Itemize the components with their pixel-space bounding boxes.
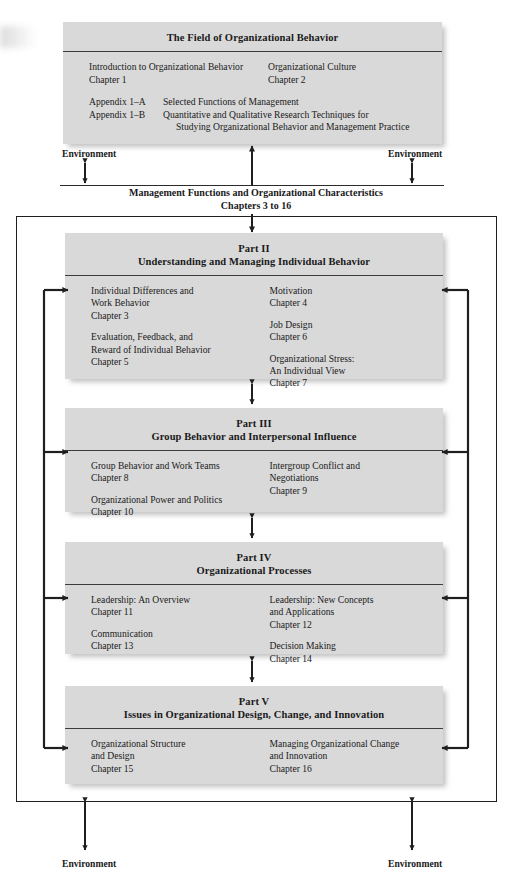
- panel-part-v: Part V Issues in Organizational Design, …: [65, 686, 443, 784]
- topic-line: Job Design: [270, 319, 443, 331]
- topic-chapter: Chapter 10: [91, 506, 262, 518]
- part-iv-title: Organizational Processes: [71, 564, 437, 577]
- center-band-top-rule: [60, 185, 444, 186]
- topic-chapter: Chapter 15: [91, 763, 262, 775]
- topic-line: Organizational Power and Politics: [91, 494, 262, 506]
- topic-chapter: Chapter 11: [91, 606, 262, 618]
- topic-chapter: Chapter 5: [91, 356, 262, 368]
- panel-part-iii-body: Group Behavior and Work Teams Chapter 8 …: [65, 451, 443, 529]
- field-right-entry-chapter: Chapter 2: [268, 74, 442, 87]
- topic-line: and Innovation: [270, 750, 443, 762]
- environment-label-bottom-right: Environment: [388, 858, 442, 869]
- part-ii-title: Understanding and Managing Individual Be…: [71, 255, 437, 268]
- part-v-title: Issues in Organizational Design, Change,…: [71, 708, 437, 721]
- topic-line: Group Behavior and Work Teams: [91, 460, 262, 472]
- panel-field-of-ob: The Field of Organizational Behavior Int…: [63, 22, 442, 144]
- part-iv-right-column: Leadership: New Concepts and Application…: [262, 594, 443, 665]
- topic-entry: Managing Organizational Change and Innov…: [270, 738, 443, 775]
- topic-entry: Organizational Stress: An Individual Vie…: [270, 353, 443, 390]
- topic-chapter: Chapter 6: [270, 331, 443, 343]
- management-functions-line1: Management Functions and Organizational …: [0, 187, 512, 200]
- topic-line: Individual Differences and: [91, 285, 262, 297]
- appendix-continuation: Studying Organizational Behavior and Man…: [163, 121, 442, 134]
- appendix-continuation-row: Studying Organizational Behavior and Man…: [89, 121, 442, 134]
- part-v-label: Part V: [71, 695, 437, 708]
- field-right-entry-title: Organizational Culture: [268, 61, 442, 74]
- topic-chapter: Chapter 14: [270, 653, 443, 665]
- topic-chapter: Chapter 7: [270, 377, 443, 389]
- topic-entry: Intergroup Conflict and Negotiations Cha…: [270, 460, 443, 497]
- topic-line: Leadership: An Overview: [91, 594, 262, 606]
- topic-line: and Design: [91, 750, 262, 762]
- panel-part-iv-heading: Part IV Organizational Processes: [65, 542, 443, 584]
- topic-line: Negotiations: [270, 472, 443, 484]
- topic-chapter: Chapter 4: [270, 297, 443, 309]
- diagram-canvas: The Field of Organizational Behavior Int…: [0, 0, 512, 882]
- part-ii-left-column: Individual Differences and Work Behavior…: [65, 285, 262, 390]
- topic-entry: Leadership: New Concepts and Application…: [270, 594, 443, 631]
- panel-part-v-heading: Part V Issues in Organizational Design, …: [65, 686, 443, 728]
- topic-chapter: Chapter 16: [270, 763, 443, 775]
- panel-field-of-ob-body: Introduction to Organizational Behavior …: [63, 52, 442, 146]
- topic-entry: Group Behavior and Work Teams Chapter 8: [91, 460, 262, 485]
- environment-label-top-right: Environment: [388, 148, 442, 159]
- panel-part-iii-heading: Part III Group Behavior and Interpersona…: [65, 408, 443, 450]
- topic-line: Decision Making: [270, 640, 443, 652]
- part-ii-right-column: Motivation Chapter 4 Job Design Chapter …: [262, 285, 443, 390]
- topic-line: An Individual View: [270, 365, 443, 377]
- topic-entry: Organizational Structure and Design Chap…: [91, 738, 262, 775]
- appendix-item: Appendix 1–A Selected Functions of Manag…: [89, 96, 442, 109]
- topic-line: Evaluation, Feedback, and: [91, 331, 262, 343]
- panel-part-iv: Part IV Organizational Processes Leaders…: [65, 542, 443, 654]
- appendix-label: Appendix 1–B: [89, 109, 163, 122]
- part-iii-title: Group Behavior and Interpersonal Influen…: [71, 430, 437, 443]
- appendix-text: Selected Functions of Management: [163, 96, 442, 109]
- topic-chapter: Chapter 12: [270, 619, 443, 631]
- topic-line: Organizational Stress:: [270, 353, 443, 365]
- panel-field-of-ob-heading: The Field of Organizational Behavior: [63, 22, 442, 51]
- appendix-text: Quantitative and Qualitative Research Te…: [163, 109, 442, 122]
- panel-part-ii-heading: Part II Understanding and Managing Indiv…: [65, 233, 443, 275]
- appendix-item: Appendix 1–B Quantitative and Qualitativ…: [89, 109, 442, 122]
- topic-line: Leadership: New Concepts: [270, 594, 443, 606]
- panel-part-ii-body: Individual Differences and Work Behavior…: [65, 276, 443, 400]
- topic-entry: Decision Making Chapter 14: [270, 640, 443, 665]
- appendix-list: Appendix 1–A Selected Functions of Manag…: [63, 96, 442, 134]
- part-v-right-column: Managing Organizational Change and Innov…: [262, 738, 443, 775]
- management-functions-line2: Chapters 3 to 16: [0, 200, 512, 213]
- topic-entry: Evaluation, Feedback, and Reward of Indi…: [91, 331, 262, 368]
- part-iii-label: Part III: [71, 417, 437, 430]
- topic-line: Communication: [91, 628, 262, 640]
- topic-chapter: Chapter 9: [270, 485, 443, 497]
- topic-entry: Leadership: An Overview Chapter 11: [91, 594, 262, 619]
- field-left-entry-title: Introduction to Organizational Behavior: [89, 61, 260, 74]
- field-left-entry: Introduction to Organizational Behavior …: [63, 61, 260, 86]
- topic-line: Managing Organizational Change: [270, 738, 443, 750]
- panel-part-iv-body: Leadership: An Overview Chapter 11 Commu…: [65, 585, 443, 675]
- topic-line: Intergroup Conflict and: [270, 460, 443, 472]
- part-v-left-column: Organizational Structure and Design Chap…: [65, 738, 262, 775]
- topic-entry: Motivation Chapter 4: [270, 285, 443, 310]
- topic-chapter: Chapter 8: [91, 472, 262, 484]
- part-iv-left-column: Leadership: An Overview Chapter 11 Commu…: [65, 594, 262, 665]
- topic-chapter: Chapter 13: [91, 640, 262, 652]
- scan-artifact-smudge: [0, 26, 36, 48]
- field-left-entry-chapter: Chapter 1: [89, 74, 260, 87]
- field-right-entry: Organizational Culture Chapter 2: [260, 61, 442, 86]
- part-iv-label: Part IV: [71, 551, 437, 564]
- environment-label-bottom-left: Environment: [62, 858, 116, 869]
- part-iii-left-column: Group Behavior and Work Teams Chapter 8 …: [65, 460, 262, 519]
- panel-part-ii: Part II Understanding and Managing Indiv…: [65, 233, 443, 379]
- part-iii-right-column: Intergroup Conflict and Negotiations Cha…: [262, 460, 443, 519]
- management-functions-band: Management Functions and Organizational …: [0, 187, 512, 212]
- topic-line: Motivation: [270, 285, 443, 297]
- topic-entry: Individual Differences and Work Behavior…: [91, 285, 262, 322]
- panel-part-v-body: Organizational Structure and Design Chap…: [65, 729, 443, 785]
- topic-line: Organizational Structure: [91, 738, 262, 750]
- topic-line: Work Behavior: [91, 297, 262, 309]
- topic-line: and Applications: [270, 606, 443, 618]
- part-ii-label: Part II: [71, 242, 437, 255]
- topic-entry: Job Design Chapter 6: [270, 319, 443, 344]
- topic-entry: Organizational Power and Politics Chapte…: [91, 494, 262, 519]
- topic-chapter: Chapter 3: [91, 310, 262, 322]
